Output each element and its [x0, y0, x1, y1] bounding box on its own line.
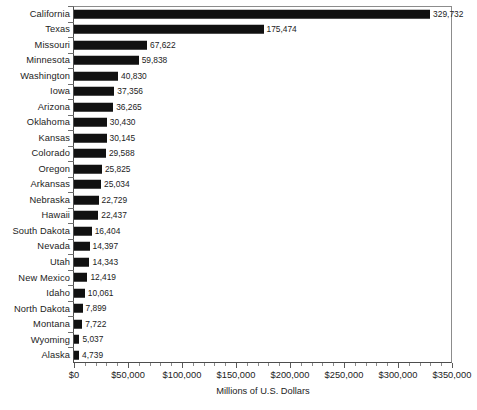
category-label: Idaho: [46, 288, 70, 298]
category-label: Arizona: [38, 102, 70, 112]
bar-track: 37,356: [74, 84, 477, 100]
bar: [74, 257, 89, 266]
x-axis-tick-minor: [214, 363, 215, 366]
bar-value-label: 175,474: [264, 24, 297, 34]
bar: [74, 71, 118, 80]
x-axis-tick-label: $50,000: [111, 370, 145, 380]
bar-value-label: 29,588: [106, 148, 135, 158]
x-axis-tick-minor: [333, 363, 334, 366]
bar: [74, 242, 90, 251]
bar-track: 4,739: [74, 347, 477, 363]
bar: [74, 9, 430, 18]
category-label: Utah: [50, 257, 70, 267]
bar: [74, 180, 101, 189]
x-axis-tick-label: $150,000: [217, 370, 256, 380]
bar-row: North Dakota7,899: [0, 301, 477, 317]
x-axis-tick-minor: [420, 363, 421, 366]
x-axis-tick-minor: [441, 363, 442, 366]
bar-value-label: 25,825: [102, 164, 131, 174]
bar-row: Idaho10,061: [0, 285, 477, 301]
bar-row: Hawaii22,437: [0, 208, 477, 224]
x-axis-tick-label: $100,000: [163, 370, 202, 380]
bar-row: Alaska4,739: [0, 347, 477, 363]
bar-row: Iowa37,356: [0, 84, 477, 100]
bar-track: 5,037: [74, 332, 477, 348]
bar-row: New Mexico12,419: [0, 270, 477, 286]
x-axis-tick-label: $300,000: [379, 370, 418, 380]
bar-row: Kansas30,145: [0, 130, 477, 146]
bar: [74, 87, 114, 96]
category-label: New Mexico: [18, 273, 70, 283]
bar: [74, 320, 82, 329]
x-axis-tick-major: [128, 363, 129, 368]
x-axis-tick-minor: [366, 363, 367, 366]
bar: [74, 164, 102, 173]
bar-track: 7,722: [74, 316, 477, 332]
x-axis-tick-minor: [312, 363, 313, 366]
x-axis: $0$50,000$100,000$150,000$200,000$250,00…: [74, 363, 452, 364]
bar-value-label: 4,739: [79, 350, 103, 360]
bar: [74, 56, 139, 65]
bar-row: Nebraska22,729: [0, 192, 477, 208]
category-label: Kansas: [38, 133, 70, 143]
bar-track: 16,404: [74, 223, 477, 239]
bar-value-label: 5,037: [79, 335, 103, 345]
x-axis-title: Millions of U.S. Dollars: [74, 386, 452, 396]
x-axis-tick-minor: [355, 363, 356, 366]
x-axis-tick-label: $250,000: [325, 370, 364, 380]
x-axis-tick-major: [290, 363, 291, 368]
x-axis-tick-minor: [106, 363, 107, 366]
bar: [74, 195, 99, 204]
x-axis-tick-major: [344, 363, 345, 368]
bar: [74, 211, 98, 220]
x-axis-tick-minor: [258, 363, 259, 366]
x-axis-tick-minor: [225, 363, 226, 366]
x-axis-tick-major: [182, 363, 183, 368]
bar-row: Minnesota59,838: [0, 53, 477, 69]
category-label: Oregon: [38, 164, 70, 174]
category-label: Oklahoma: [27, 117, 70, 127]
bar-row: Colorado29,588: [0, 146, 477, 162]
bar: [74, 102, 113, 111]
bar-value-label: 12,419: [87, 273, 116, 283]
x-axis-tick-major: [236, 363, 237, 368]
x-axis-tick-minor: [160, 363, 161, 366]
bar-track: 29,588: [74, 146, 477, 162]
category-label: Nebraska: [29, 195, 70, 205]
bar-track: 36,265: [74, 99, 477, 115]
bar-track: 12,419: [74, 270, 477, 286]
bar: [74, 118, 107, 127]
bar-value-label: 37,356: [114, 86, 143, 96]
x-axis-tick-minor: [96, 363, 97, 366]
bar-value-label: 329,732: [430, 9, 463, 19]
bar-track: 30,430: [74, 115, 477, 131]
bar-track: 329,732: [74, 6, 477, 22]
bar-track: 40,830: [74, 68, 477, 84]
bar-chart: California329,732Texas175,474Missouri67,…: [0, 0, 477, 410]
x-axis-tick-major: [452, 363, 453, 368]
x-axis-tick-minor: [409, 363, 410, 366]
x-axis-tick-minor: [387, 363, 388, 366]
category-label: Hawaii: [42, 210, 71, 220]
bar-row: Oregon25,825: [0, 161, 477, 177]
bar-row: Arkansas25,034: [0, 177, 477, 193]
category-label: Minnesota: [26, 55, 70, 65]
bar-track: 25,034: [74, 177, 477, 193]
bar-track: 22,729: [74, 192, 477, 208]
category-label: Texas: [45, 24, 70, 34]
footnote-clipped: [4, 401, 194, 410]
category-label: South Dakota: [12, 226, 70, 236]
bar-track: 25,825: [74, 161, 477, 177]
bar: [74, 25, 264, 34]
x-axis-tick-minor: [171, 363, 172, 366]
x-axis-tick-label: $200,000: [271, 370, 310, 380]
category-label: Washington: [20, 71, 70, 81]
bar-value-label: 7,722: [82, 319, 106, 329]
bar-track: 22,437: [74, 208, 477, 224]
category-label: Missouri: [35, 40, 70, 50]
x-axis-tick-major: [398, 363, 399, 368]
bar-track: 14,343: [74, 254, 477, 270]
category-label: Arkansas: [30, 179, 70, 189]
category-label: Nevada: [37, 241, 70, 251]
bar-row: Missouri67,622: [0, 37, 477, 53]
